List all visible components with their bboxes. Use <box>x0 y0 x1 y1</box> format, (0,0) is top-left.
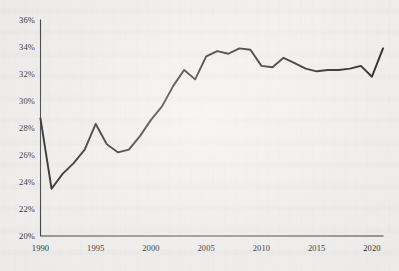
x-tick-label: 1995 <box>80 243 112 253</box>
chart-figure: 20%22%24%26%28%30%32%34%36% 199019952000… <box>0 0 399 271</box>
y-tick-label: 32% <box>6 69 35 79</box>
axes-group <box>41 20 384 236</box>
y-tick-label: 30% <box>6 96 35 106</box>
x-tick-label: 2010 <box>245 243 277 253</box>
axis-lines <box>41 20 384 236</box>
y-tick-label: 22% <box>6 204 35 214</box>
data-group <box>41 48 384 188</box>
x-tick-label: 2015 <box>301 243 333 253</box>
y-tick-label: 34% <box>6 42 35 52</box>
x-tick-label: 2000 <box>135 243 167 253</box>
line-chart-plot <box>0 0 399 271</box>
y-tick-label: 26% <box>6 150 35 160</box>
x-tick-label: 1990 <box>25 243 57 253</box>
x-tick-label: 2020 <box>356 243 388 253</box>
y-tick-label: 20% <box>6 231 35 241</box>
y-tick-label: 24% <box>6 177 35 187</box>
x-tick-label: 2005 <box>190 243 222 253</box>
data-series-line <box>41 48 384 188</box>
y-tick-label: 36% <box>6 15 35 25</box>
y-tick-label: 28% <box>6 123 35 133</box>
